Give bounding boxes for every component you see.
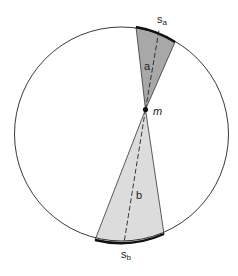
label-s-a-sub: a [163, 18, 168, 27]
label-s-a: sa [157, 13, 168, 27]
point-m [143, 107, 148, 112]
wedge-b [95, 110, 164, 244]
circle-diagram: m a b sa sb [0, 0, 238, 276]
label-m: m [153, 105, 162, 117]
label-s-b: sb [121, 248, 132, 262]
label-a: a [144, 60, 151, 72]
label-s-b-sub: b [127, 253, 132, 262]
label-b: b [136, 189, 142, 201]
